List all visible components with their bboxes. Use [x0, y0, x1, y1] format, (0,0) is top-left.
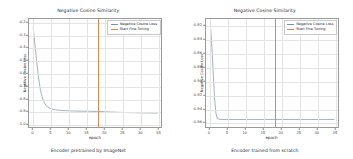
- plot-area-wrapper: Negative Cosine Loss -0.2-0.3-0.4-0.5-0.…: [28, 18, 162, 128]
- gridline-vertical: [228, 19, 229, 127]
- legend-color-swatch: [287, 24, 294, 25]
- gridline-vertical: [33, 19, 34, 127]
- legend-color-swatch: [287, 29, 294, 30]
- x-tick-mark: [86, 128, 87, 130]
- legend-color-swatch: [111, 29, 118, 30]
- x-tick-mark: [68, 128, 69, 130]
- gridline-vertical: [210, 19, 211, 127]
- chart-panel-scratch: Negative Cosine Similarity Negative Cosi…: [177, 0, 353, 159]
- x-tick-label: 20: [102, 131, 107, 135]
- chart-panel-pretrained: Negative Cosine Similarity Negative Cosi…: [0, 0, 177, 159]
- plot-area-wrapper: Negative Cosine Loss -0.82-0.84-0.86-0.8…: [205, 18, 339, 128]
- y-tick-label: -0.84: [192, 37, 202, 41]
- x-tick-label: 5: [226, 131, 228, 135]
- series-line: [33, 28, 157, 113]
- x-tick-mark: [317, 128, 318, 130]
- gridline-vertical: [141, 19, 142, 127]
- y-tick-label: -0.94: [192, 107, 202, 111]
- y-tick-label: -0.96: [192, 120, 202, 124]
- y-tick-mark: [26, 34, 28, 35]
- y-tick-label: -0.9: [18, 109, 25, 113]
- gridline-vertical: [282, 19, 283, 127]
- x-axis-label: epoch: [28, 135, 162, 140]
- y-tick-label: -0.86: [192, 51, 202, 55]
- chart-legend: Negative Cosine Loss Start Fine Tuning: [284, 20, 337, 35]
- y-tick-mark: [26, 47, 28, 48]
- x-tick-mark: [140, 128, 141, 130]
- legend-label: Start Fine Tuning: [296, 27, 325, 32]
- gridline-vertical: [51, 19, 52, 127]
- y-tick-label: -0.88: [192, 65, 202, 69]
- y-tick-label: -0.7: [18, 84, 25, 88]
- panel-caption: Encoder trained from scratch: [177, 148, 353, 153]
- gridline-vertical: [87, 19, 88, 127]
- gridline-vertical: [105, 19, 106, 127]
- gridline-vertical: [264, 19, 265, 127]
- x-tick-label: 10: [66, 131, 71, 135]
- y-tick-mark: [26, 98, 28, 99]
- y-tick-label: -0.82: [192, 23, 202, 27]
- y-axis-label: Negative Cosine Loss: [200, 54, 204, 92]
- y-tick-mark: [203, 122, 205, 123]
- legend-item-finetune: Start Fine Tuning: [287, 27, 333, 32]
- x-tick-label: 25: [120, 131, 125, 135]
- start-fine-tuning-vline: [98, 19, 99, 127]
- figure-two-panel-charts: Negative Cosine Similarity Negative Cosi…: [0, 0, 353, 159]
- chart-legend: Negative Cosine Loss Start Fine Tuning: [107, 20, 160, 35]
- gridline-vertical: [69, 19, 70, 127]
- y-tick-mark: [203, 66, 205, 67]
- x-tick-mark: [227, 128, 228, 130]
- x-tick-mark: [245, 128, 246, 130]
- gridline-vertical: [246, 19, 247, 127]
- y-tick-mark: [26, 124, 28, 125]
- chart-title: Negative Cosine Similarity: [0, 8, 177, 13]
- gridline-vertical: [300, 19, 301, 127]
- x-axis-label: epoch: [205, 135, 339, 140]
- x-tick-label: 15: [84, 131, 89, 135]
- x-tick-mark: [263, 128, 264, 130]
- y-tick-mark: [203, 53, 205, 54]
- x-tick-mark: [209, 128, 210, 130]
- y-tick-mark: [203, 80, 205, 81]
- y-tick-label: -0.2: [18, 20, 25, 24]
- x-tick-label: 35: [333, 131, 338, 135]
- gridline-vertical: [336, 19, 337, 127]
- panel-caption: Encoder pretrained by ImageNet: [0, 148, 177, 153]
- y-tick-mark: [26, 86, 28, 87]
- y-tick-mark: [203, 25, 205, 26]
- y-tick-label: -0.5: [18, 58, 25, 62]
- x-tick-label: 5: [49, 131, 51, 135]
- y-tick-label: -0.4: [18, 45, 25, 49]
- y-tick-label: -0.3: [18, 33, 25, 37]
- x-tick-label: 35: [156, 131, 161, 135]
- y-tick-mark: [26, 22, 28, 23]
- y-tick-label: -0.92: [192, 93, 202, 97]
- y-tick-mark: [203, 94, 205, 95]
- y-tick-mark: [26, 73, 28, 74]
- x-tick-label: 15: [260, 131, 265, 135]
- y-tick-label: -0.6: [18, 71, 25, 75]
- start-fine-tuning-vline: [275, 19, 276, 127]
- x-tick-mark: [281, 128, 282, 130]
- x-tick-label: 0: [31, 131, 33, 135]
- legend-item-finetune: Start Fine Tuning: [111, 27, 157, 32]
- y-tick-label: -1.0: [18, 122, 25, 126]
- y-tick-mark: [26, 111, 28, 112]
- x-tick-label: 10: [242, 131, 247, 135]
- y-tick-mark: [203, 108, 205, 109]
- y-tick-label: -0.90: [192, 79, 202, 83]
- gridline-vertical: [159, 19, 160, 127]
- x-tick-mark: [50, 128, 51, 130]
- y-tick-label: -0.8: [18, 97, 25, 101]
- gridline-vertical: [123, 19, 124, 127]
- x-tick-label: 20: [279, 131, 284, 135]
- y-tick-mark: [26, 60, 28, 61]
- x-tick-label: 30: [315, 131, 320, 135]
- y-tick-mark: [203, 39, 205, 40]
- gridline-vertical: [318, 19, 319, 127]
- x-tick-label: 0: [208, 131, 210, 135]
- x-tick-mark: [335, 128, 336, 130]
- x-tick-mark: [158, 128, 159, 130]
- x-tick-label: 25: [297, 131, 302, 135]
- legend-color-swatch: [111, 24, 118, 25]
